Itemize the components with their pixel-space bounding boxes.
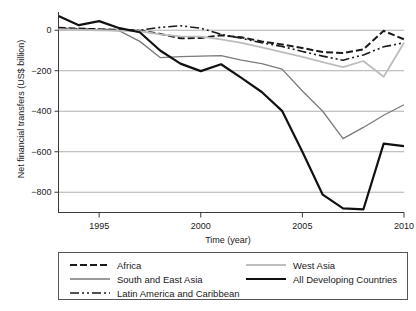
gridlines-group bbox=[59, 30, 405, 192]
legend-label: Africa bbox=[117, 260, 141, 271]
legend-swatch-icon bbox=[69, 288, 111, 298]
chart-figure: 0−200−400−600−800 1995200020052010 Net f… bbox=[0, 0, 416, 311]
y-tick-label: −800 bbox=[31, 187, 51, 197]
legend-label: West Asia bbox=[293, 260, 335, 271]
legend-label: All Developing Countries bbox=[293, 274, 397, 285]
x-tick-label: 1995 bbox=[89, 221, 109, 231]
data-series-group bbox=[59, 16, 405, 209]
y-axis-title: Net financial transfers (US$ billion) bbox=[16, 14, 26, 204]
y-tick-group: 0−200−400−600−800 bbox=[31, 25, 58, 197]
x-tick-label: 2000 bbox=[191, 221, 211, 231]
y-tick-label: −600 bbox=[31, 147, 51, 157]
axes-group bbox=[58, 12, 404, 213]
legend-swatch-icon bbox=[245, 274, 287, 284]
x-tick-label: 2010 bbox=[394, 221, 414, 231]
chart-legend: AfricaSouth and East AsiaLatin America a… bbox=[58, 252, 408, 300]
legend-item-africa[interactable]: Africa bbox=[69, 258, 141, 272]
legend-label: South and East Asia bbox=[117, 274, 203, 285]
x-tick-group: 1995200020052010 bbox=[89, 213, 414, 231]
legend-swatch-icon bbox=[69, 274, 111, 284]
legend-item-latin-america-and-caribbean[interactable]: Latin America and Caribbean bbox=[69, 286, 240, 300]
legend-swatch-icon bbox=[245, 260, 287, 270]
y-tick-label: 0 bbox=[46, 25, 51, 35]
y-tick-label: −400 bbox=[31, 106, 51, 116]
y-tick-label: −200 bbox=[31, 66, 51, 76]
legend-swatch-icon bbox=[69, 260, 111, 270]
legend-item-west-asia[interactable]: West Asia bbox=[245, 258, 335, 272]
legend-item-all-developing-countries[interactable]: All Developing Countries bbox=[245, 272, 397, 286]
series-line-all-developing-countries bbox=[59, 16, 405, 209]
legend-label: Latin America and Caribbean bbox=[117, 288, 240, 299]
legend-item-south-and-east-asia[interactable]: South and East Asia bbox=[69, 272, 203, 286]
x-axis-title: Time (year) bbox=[58, 235, 398, 245]
series-line-south-and-east-asia bbox=[59, 29, 405, 139]
x-tick-label: 2005 bbox=[292, 221, 312, 231]
